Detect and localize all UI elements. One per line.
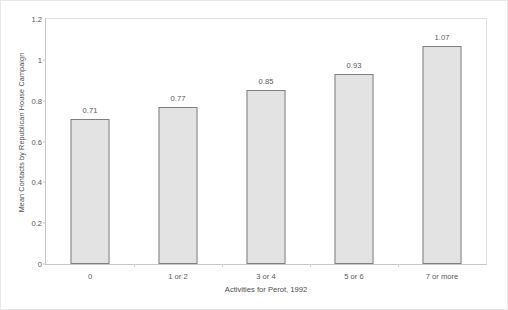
bar-group: 1.07 — [398, 19, 486, 264]
y-tick-mark — [43, 264, 46, 265]
x-category-label: 3 or 4 — [256, 272, 275, 281]
bar[interactable] — [159, 107, 198, 264]
bar-group: 0.77 — [134, 19, 222, 264]
bar-group: 0.93 — [310, 19, 398, 264]
x-category-label: 5 or 6 — [344, 272, 363, 281]
x-axis-title: Activities for Perot, 1992 — [45, 285, 487, 294]
x-tick-mark — [134, 264, 135, 267]
y-axis-title: Mean Contacts by Republican House Campai… — [17, 8, 26, 258]
bar[interactable] — [335, 74, 374, 264]
bar-value-label: 1.07 — [435, 33, 450, 42]
y-tick-mark — [43, 59, 46, 60]
bar-value-label: 0.85 — [259, 77, 274, 86]
x-tick-mark — [222, 264, 223, 267]
bar[interactable] — [247, 90, 286, 264]
y-tick-label: 0.4 — [31, 178, 42, 187]
y-tick-mark — [43, 100, 46, 101]
bar-group: 0.71 — [46, 19, 134, 264]
bar-chart-figure: Mean Contacts by Republican House Campai… — [0, 0, 508, 310]
y-tick-label: 1 — [38, 55, 42, 64]
y-tick-label: 1.2 — [31, 15, 42, 24]
bar-value-label: 0.93 — [347, 61, 362, 70]
y-tick-mark — [43, 223, 46, 224]
bar-value-label: 0.77 — [171, 94, 186, 103]
x-tick-mark — [310, 264, 311, 267]
bar-group: 0.85 — [222, 19, 310, 264]
x-category-label: 1 or 2 — [168, 272, 187, 281]
y-tick-mark — [43, 182, 46, 183]
bars-layer: 0.710.770.850.931.07 — [46, 19, 486, 264]
x-category-label: 0 — [88, 272, 92, 281]
y-tick-label: 0.2 — [31, 219, 42, 228]
bar-value-label: 0.71 — [83, 106, 98, 115]
y-tick-label: 0 — [38, 260, 42, 269]
bar[interactable] — [71, 119, 110, 264]
x-category-label: 7 or more — [426, 272, 459, 281]
x-tick-mark — [398, 264, 399, 267]
y-tick-label: 0.8 — [31, 96, 42, 105]
bar[interactable] — [423, 46, 462, 264]
y-tick-mark — [43, 141, 46, 142]
plot-area: 0.710.770.850.931.07 1.210.80.60.40.2001… — [45, 18, 487, 265]
y-tick-label: 0.6 — [31, 137, 42, 146]
